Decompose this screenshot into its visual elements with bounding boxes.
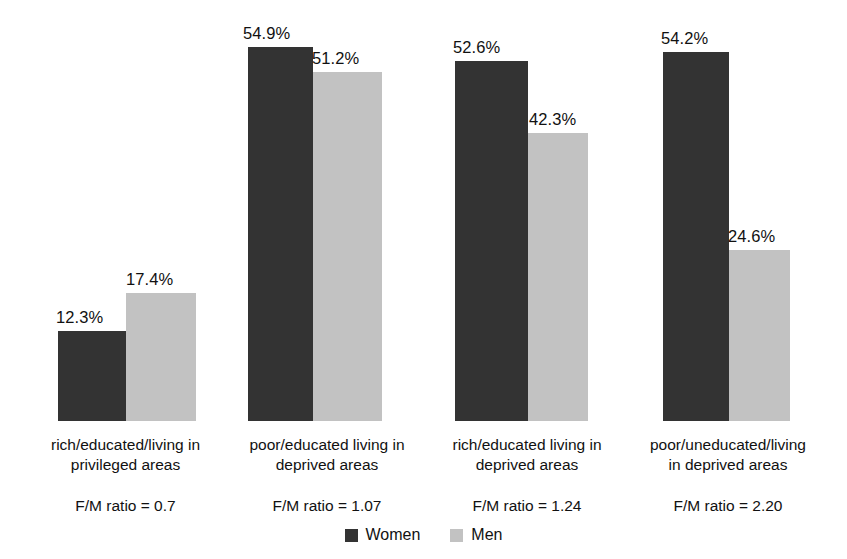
bar-group-4: 54.2% 24.6% (663, 0, 790, 421)
plot-area: 12.3% 17.4% 54.9% 51.2% 52.6% 42.3% 54.2… (0, 0, 847, 421)
category-block-3: rich/educated living in deprived areas F… (424, 421, 630, 513)
category-label-4: poor/uneducated/living in deprived areas (625, 435, 831, 476)
ratio-annotation-2: F/M ratio = 1.07 (222, 498, 432, 514)
category-label-2-line-2: deprived areas (222, 455, 432, 475)
bar-group-2: 54.9% 51.2% (248, 0, 382, 421)
bar-value-women-2: 54.9% (243, 25, 290, 42)
category-label-4-line-2: in deprived areas (625, 455, 831, 475)
category-block-4: poor/uneducated/living in deprived areas… (625, 421, 831, 513)
ratio-annotation-1: F/M ratio = 0.7 (18, 498, 233, 514)
bar-value-men-2: 51.2% (312, 50, 359, 67)
category-block-1: rich/educated/living in privileged areas… (18, 421, 233, 513)
chart-legend: Women Men (0, 527, 847, 543)
bar-women-2[interactable] (248, 47, 313, 421)
category-label-2: poor/educated living in deprived areas (222, 435, 432, 476)
legend-swatch-men-icon (450, 529, 463, 542)
legend-item-women[interactable]: Women (345, 527, 421, 543)
legend-swatch-women-icon (345, 529, 358, 542)
bar-value-men-4: 24.6% (728, 228, 775, 245)
bar-group-3: 52.6% 42.3% (455, 0, 588, 421)
ratio-annotation-3: F/M ratio = 1.24 (424, 498, 630, 514)
bar-women-3[interactable] (455, 61, 528, 421)
category-label-2-line-1: poor/educated living in (222, 435, 432, 455)
category-label-1-line-1: rich/educated/living in (18, 435, 233, 455)
ratio-annotation-4: F/M ratio = 2.20 (625, 498, 831, 514)
bar-group-1: 12.3% 17.4% (58, 0, 196, 421)
legend-label-women: Women (366, 527, 421, 543)
category-label-3: rich/educated living in deprived areas (424, 435, 630, 476)
bar-men-3[interactable] (528, 133, 588, 421)
bar-women-4[interactable] (663, 52, 729, 421)
category-label-4-line-1: poor/uneducated/living (625, 435, 831, 455)
category-label-3-line-2: deprived areas (424, 455, 630, 475)
category-label-3-line-1: rich/educated living in (424, 435, 630, 455)
bar-value-women-3: 52.6% (453, 39, 500, 56)
bar-value-women-1: 12.3% (56, 309, 103, 326)
bar-men-1[interactable] (126, 293, 196, 421)
bar-value-men-3: 42.3% (529, 111, 576, 128)
category-block-2: poor/educated living in deprived areas F… (222, 421, 432, 513)
bar-value-women-4: 54.2% (661, 30, 708, 47)
bar-men-4[interactable] (729, 250, 790, 421)
category-axis: rich/educated/living in privileged areas… (0, 421, 847, 521)
legend-label-men: Men (471, 527, 502, 543)
bar-men-2[interactable] (313, 72, 382, 421)
legend-item-men[interactable]: Men (450, 527, 502, 543)
bar-women-1[interactable] (58, 331, 126, 421)
bar-chart: 12.3% 17.4% 54.9% 51.2% 52.6% 42.3% 54.2… (0, 0, 847, 559)
category-label-1-line-2: privileged areas (18, 455, 233, 475)
category-label-1: rich/educated/living in privileged areas (18, 435, 233, 476)
bar-value-men-1: 17.4% (126, 271, 173, 288)
